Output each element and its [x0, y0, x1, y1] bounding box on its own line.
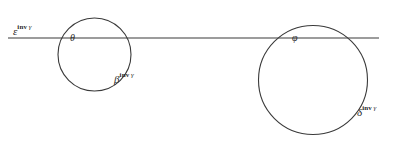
right-circle — [259, 26, 368, 135]
label-epsilon-superscript: inv — [17, 23, 27, 31]
label-epsilon: εinvγ — [13, 22, 32, 38]
label-delta: δinvγ — [357, 103, 376, 119]
label-beta-superscript-gamma: γ — [131, 71, 134, 79]
diagram-canvas: εinvγ θ βinvγ φ δinvγ — [0, 0, 400, 142]
label-delta-superscript-gamma: γ — [374, 104, 377, 112]
label-theta: θ — [70, 28, 75, 44]
label-phi-base: φ — [292, 32, 298, 43]
label-epsilon-superscript-gamma: γ — [29, 23, 32, 31]
label-beta-superscript: inv — [119, 71, 129, 79]
label-theta-base: θ — [70, 32, 75, 43]
label-phi: φ — [292, 28, 298, 44]
diagram-vector-layer — [0, 0, 400, 142]
label-delta-superscript: inv — [362, 104, 372, 112]
label-beta: βinvγ — [114, 70, 134, 86]
